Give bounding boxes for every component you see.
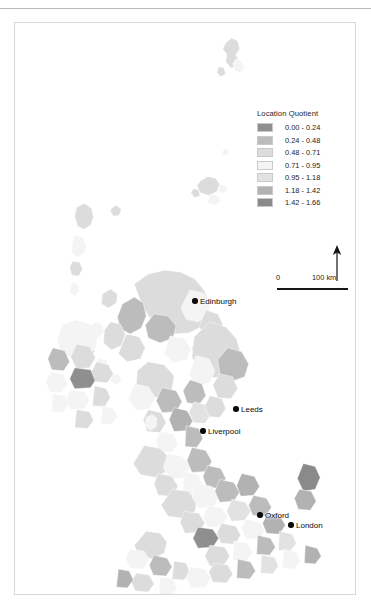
- city-dot-icon: [257, 512, 263, 518]
- legend-item: 0.71 - 0.95: [257, 160, 353, 171]
- legend-item: 0.95 - 1.18: [257, 172, 353, 183]
- region-outer-hebrides: [70, 203, 94, 296]
- region-grampian: [183, 322, 249, 405]
- city-marker-leeds: Leeds: [233, 404, 263, 414]
- legend-item-label: 0.71 - 0.95: [285, 161, 320, 170]
- region-shetland: [217, 38, 245, 77]
- city-marker-liverpool: Liverpool: [200, 426, 240, 436]
- legend-item-label: 0.00 - 0.24: [285, 123, 320, 132]
- legend-title: Location Quotient: [257, 109, 353, 118]
- legend-swatch: [257, 186, 273, 195]
- city-dot-icon: [200, 428, 206, 434]
- city-label: Leeds: [241, 405, 263, 414]
- city-marker-london: London: [288, 520, 323, 530]
- region-east-coast-highlight: [294, 463, 320, 510]
- legend: Location Quotient 0.00 - 0.24 0.24 - 0.4…: [257, 109, 353, 210]
- scale-bar-min-label: 0: [276, 273, 280, 282]
- scale-bar-line: [277, 288, 348, 290]
- legend-swatch: [257, 198, 273, 207]
- city-marker-edinburgh: Edinburgh: [192, 296, 236, 306]
- map-page: .c0{fill:#8f8f8f}.c1{fill:#bcbcbc}.c2{fi…: [0, 0, 371, 607]
- isle-lewis-n: [110, 205, 121, 216]
- legend-item: 1.18 - 1.42: [257, 185, 353, 196]
- region-midlands: [186, 545, 321, 588]
- legend-item: 0.00 - 0.24: [257, 122, 353, 133]
- city-dot-icon: [192, 298, 198, 304]
- city-dot-icon: [288, 522, 294, 528]
- legend-item-label: 1.18 - 1.42: [285, 186, 320, 195]
- map-frame: .c0{fill:#8f8f8f}.c1{fill:#bcbcbc}.c2{fi…: [14, 22, 356, 595]
- legend-item: 1.42 - 1.66: [257, 197, 353, 208]
- legend-item: 0.24 - 0.48: [257, 135, 353, 146]
- legend-item-label: 0.48 - 0.71: [285, 148, 320, 157]
- legend-swatch: [257, 161, 273, 170]
- legend-swatch: [257, 148, 273, 157]
- legend-item-label: 0.95 - 1.18: [285, 173, 320, 182]
- legend-item: 0.48 - 0.71: [257, 147, 353, 158]
- legend-item-label: 1.42 - 1.66: [285, 198, 320, 207]
- scale-bar: 0 100 km: [260, 273, 355, 284]
- region-orkney: [191, 176, 228, 205]
- scale-bar-max-label: 100 km: [312, 273, 336, 282]
- legend-item-label: 0.24 - 0.48: [285, 136, 320, 145]
- city-label: Liverpool: [208, 427, 240, 436]
- city-label: Oxford: [265, 511, 289, 520]
- legend-swatch: [257, 123, 273, 132]
- city-marker-oxford: Oxford: [257, 510, 289, 520]
- city-dot-icon: [233, 406, 239, 412]
- top-divider: [0, 8, 371, 9]
- legend-swatch: [257, 136, 273, 145]
- city-label: London: [296, 521, 323, 530]
- region-wales: [116, 531, 190, 594]
- isle-fair: [223, 149, 229, 156]
- city-label: Edinburgh: [200, 297, 236, 306]
- legend-swatch: [257, 173, 273, 182]
